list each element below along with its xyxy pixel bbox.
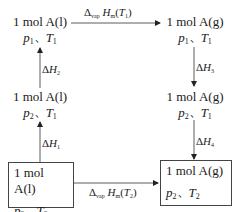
node-substance: 1 mol A(l) (8, 89, 72, 105)
node-conditions: p2、T1 (8, 105, 72, 125)
node-conditions: p2、T1 (162, 105, 228, 125)
node-conditions: p2、T2 (14, 203, 68, 212)
label-delta-h1: ΔH1 (42, 137, 60, 150)
node-mid-left-liquid: 1 mol A(l) p2、T1 (8, 89, 72, 125)
label-delta-h4: ΔH4 (196, 135, 214, 148)
label-vap-enthalpy-t2: Δvap Hm(T2) (89, 186, 137, 199)
node-bottom-left-liquid: 1 mol A(l) p2、T2 (8, 162, 74, 208)
node-substance: 1 mol A(g) (162, 14, 228, 30)
node-conditions: p2、T2 (166, 185, 226, 205)
node-substance: 1 mol A(g) (166, 163, 226, 179)
node-substance: 1 mol A(g) (162, 89, 228, 105)
node-substance: 1 mol A(l) (8, 14, 72, 30)
node-conditions: p1、T1 (8, 30, 72, 50)
node-top-left-liquid: 1 mol A(l) p1、T1 (8, 14, 72, 50)
label-delta-h2: ΔH2 (42, 63, 60, 76)
label-vap-enthalpy-t1: Δvap Hm(T1) (84, 6, 132, 19)
node-bottom-right-gas: 1 mol A(g) p2、T2 (160, 160, 232, 206)
node-top-right-gas: 1 mol A(g) p1、T1 (162, 14, 228, 50)
label-delta-h3: ΔH3 (196, 61, 214, 74)
node-mid-right-gas: 1 mol A(g) p2、T1 (162, 89, 228, 125)
node-conditions: p1、T1 (162, 30, 228, 50)
node-substance: 1 mol A(l) (14, 165, 68, 197)
